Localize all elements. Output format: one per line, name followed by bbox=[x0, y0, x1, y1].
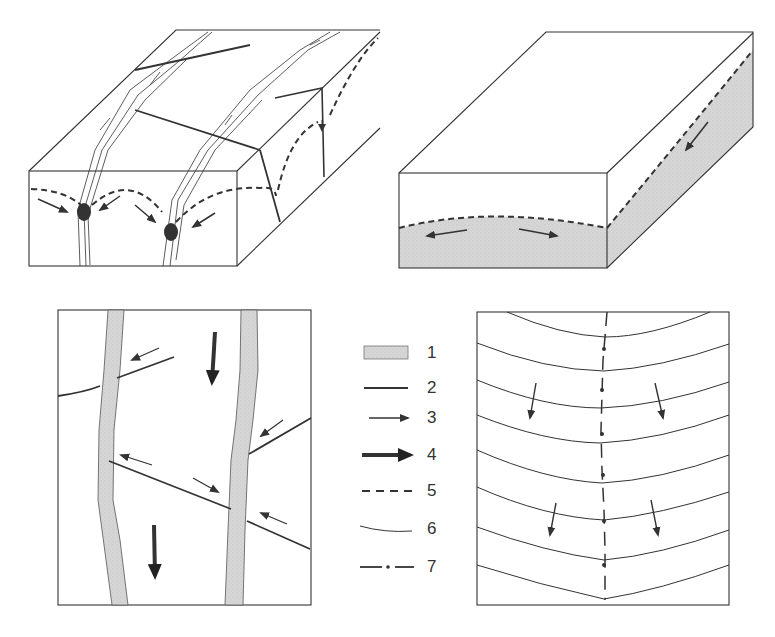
legend-symbol-6 bbox=[360, 526, 412, 531]
legend-symbols bbox=[360, 346, 414, 569]
ore-node bbox=[164, 223, 178, 241]
ore-node bbox=[77, 203, 91, 221]
map-view-dykes bbox=[58, 310, 311, 605]
legend-label-4: 4 bbox=[427, 445, 436, 465]
figure-canvas bbox=[0, 0, 775, 637]
legend-label-2: 2 bbox=[427, 378, 436, 398]
legend-label-5: 5 bbox=[427, 481, 436, 501]
legend-label-7: 7 bbox=[427, 557, 436, 577]
block-diagram-fold-fractures bbox=[29, 30, 380, 266]
legend-symbol-7 bbox=[360, 565, 414, 569]
legend-label-6: 6 bbox=[427, 519, 436, 539]
legend-symbol-1 bbox=[364, 346, 408, 359]
legend-label-1: 1 bbox=[427, 343, 436, 363]
map-view-contours bbox=[477, 312, 729, 605]
legend-label-3: 3 bbox=[427, 408, 436, 428]
block-diagram-shaded bbox=[399, 32, 753, 268]
